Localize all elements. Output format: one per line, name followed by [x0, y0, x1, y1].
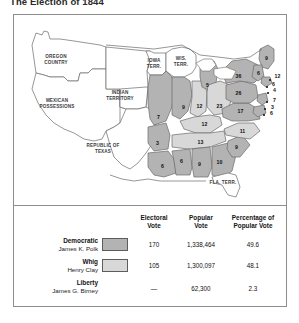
- ev-virginia: 17: [235, 109, 246, 114]
- popular-vote-whig: 1,300,097: [178, 262, 224, 270]
- ev-arkansas: 3: [153, 141, 162, 146]
- ev-maine: 9: [262, 56, 271, 61]
- popular-vote-democratic: 1,338,464: [178, 241, 224, 249]
- leader-dot-connecticut: [266, 86, 268, 88]
- ev-new-jersey: 7: [270, 98, 279, 103]
- map-label-indian-territory: INDIAN TERRITORY: [96, 90, 144, 101]
- ev-rhode-island: 4: [270, 88, 279, 93]
- leader-dot-rhode-island: [267, 92, 269, 94]
- percentage-liberty: 2.3: [222, 285, 284, 293]
- ev-illinois: 9: [179, 105, 188, 110]
- percentage-democratic: 49.6: [222, 241, 284, 249]
- leader-dot-new-jersey: [266, 101, 268, 103]
- ev-south-carolina: 9: [232, 145, 241, 150]
- electoral-vote-liberty: —: [132, 285, 176, 293]
- results-legend: Electoral Vote Popular Vote Percentage o…: [14, 205, 286, 306]
- header-percentage-popular-vote: Percentage of Popular Vote: [222, 214, 284, 229]
- ev-michigan: 5: [203, 83, 212, 88]
- ev-massachusetts: 12: [272, 74, 283, 79]
- ev-north-carolina: 11: [237, 129, 248, 134]
- candidate-name-polk: James K. Polk: [24, 245, 98, 253]
- party-name-democratic: Democratic: [32, 237, 98, 245]
- ev-georgia: 10: [214, 160, 225, 165]
- ev-kentucky: 12: [199, 122, 210, 127]
- ev-new-hampshire: 6: [254, 71, 263, 76]
- swatch-whig: [102, 259, 128, 272]
- swatch-democratic: [102, 238, 128, 251]
- map-label-florida-territory: FLA. TERR.: [206, 180, 240, 186]
- ev-missouri: 7: [154, 115, 163, 120]
- ev-ohio: 23: [214, 104, 225, 109]
- party-name-liberty: Liberty: [32, 279, 98, 287]
- map-label-republic-of-texas: REPUBLIC OF TEXAS: [76, 143, 130, 154]
- legend-divider: [14, 205, 286, 206]
- candidate-name-clay: Henry Clay: [24, 266, 98, 274]
- page-title: The Election of 1844: [10, 0, 104, 6]
- leader-dot-maryland: [263, 114, 265, 116]
- electoral-vote-democratic: 170: [132, 241, 176, 249]
- ev-maryland: 6: [267, 111, 276, 116]
- ev-mississippi: 6: [177, 159, 186, 164]
- election-map: OREGON COUNTRY MEXICAN POSSESSIONS REPUB…: [14, 15, 286, 205]
- ev-louisiana: 6: [158, 164, 167, 169]
- map-label-oregon-country: OREGON COUNTRY: [34, 54, 78, 65]
- ev-indiana: 12: [194, 104, 205, 109]
- ev-new-york: 36: [233, 74, 244, 79]
- candidate-name-birney: James G. Birney: [14, 287, 98, 295]
- map-label-wisconsin-territory: WIS. TERR.: [168, 56, 194, 67]
- ev-alabama: 9: [195, 162, 204, 167]
- header-electoral-vote: Electoral Vote: [132, 214, 176, 229]
- map-label-iowa-territory: IOWA TERR.: [140, 58, 168, 69]
- leader-dot-massachusetts: [269, 79, 271, 81]
- ev-pennsylvania: 26: [233, 91, 244, 96]
- header-popular-vote: Popular Vote: [178, 214, 224, 229]
- percentage-whig: 48.1: [222, 262, 284, 270]
- electoral-vote-whig: 105: [132, 262, 176, 270]
- leader-dot-delaware: [264, 108, 266, 110]
- map-label-mexican-possessions: MEXICAN POSSESSIONS: [28, 98, 86, 109]
- map-figure-frame: OREGON COUNTRY MEXICAN POSSESSIONS REPUB…: [13, 14, 287, 307]
- ev-tennessee: 13: [195, 140, 206, 145]
- party-name-whig: Whig: [32, 258, 98, 266]
- popular-vote-liberty: 62,300: [178, 285, 224, 293]
